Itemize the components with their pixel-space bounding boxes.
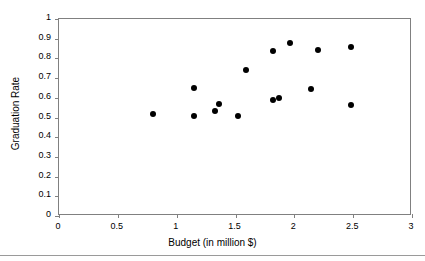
y-axis-tick-label: 0.2 [21,171,51,180]
y-axis-tick-label: 0.1 [21,190,51,199]
y-axis-tick-label: 0.9 [21,33,51,42]
x-axis-tick-label: 3 [396,222,425,231]
y-axis-tick [55,39,59,40]
x-axis-tick [177,214,178,218]
bottom-separator-rule [0,255,425,256]
y-axis-title: Graduation Rate [10,49,21,179]
y-axis-tick-label: 0.6 [21,92,51,101]
y-axis-tick [55,98,59,99]
data-point [348,102,354,108]
data-point [287,40,293,46]
y-axis-tick [55,58,59,59]
x-axis-tick [353,214,354,218]
scatter-plot-figure: 00.10.20.30.40.50.60.70.80.91 00.511.522… [0,0,425,261]
y-axis-tick [55,78,59,79]
data-point [216,101,222,107]
data-point [191,113,197,119]
y-axis-tick-label: 0.8 [21,52,51,61]
data-point [235,113,241,119]
x-axis-title: Budget (in million $) [0,237,425,248]
x-axis-tick-label: 2.5 [337,222,367,231]
y-axis-tick-label: 0 [21,210,51,219]
data-point [276,95,282,101]
x-axis-tick [294,214,295,218]
y-axis-tick-label: 0.5 [21,112,51,121]
x-axis-tick-label: 0 [43,222,73,231]
x-axis-tick-label: 1.5 [220,222,250,231]
y-axis-tick [55,137,59,138]
data-point [308,86,314,92]
data-points-layer [59,19,410,214]
data-point [270,48,276,54]
x-axis-tick [412,214,413,218]
data-point [150,111,156,117]
y-axis-tick [55,118,59,119]
data-point [270,97,276,103]
y-axis-tick-label: 0.4 [21,131,51,140]
plot-area-frame [58,18,411,215]
y-axis-tick-label: 1 [21,13,51,22]
x-axis-tick-label: 2 [278,222,308,231]
data-point [243,67,249,73]
x-axis-tick [118,214,119,218]
y-axis-tick [55,19,59,20]
y-axis-tick-label: 0.3 [21,151,51,160]
x-axis-tick-label: 1 [161,222,191,231]
x-axis-tick [59,214,60,218]
y-axis-tick [55,177,59,178]
y-axis-tick-label: 0.7 [21,72,51,81]
data-point [315,47,321,53]
data-point [348,44,354,50]
data-point [191,85,197,91]
x-axis-tick-label: 0.5 [102,222,132,231]
y-axis-tick [55,157,59,158]
x-axis-tick [236,214,237,218]
y-axis-tick [55,196,59,197]
data-point [212,108,218,114]
